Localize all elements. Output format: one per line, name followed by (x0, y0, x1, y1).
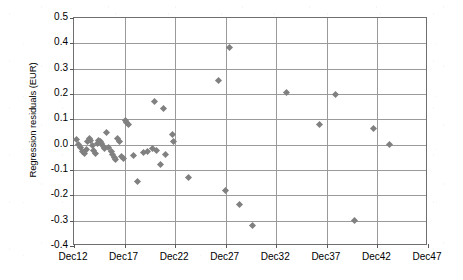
data-point (316, 121, 323, 128)
data-point (236, 201, 243, 208)
data-point (103, 129, 110, 136)
gridline-vertical (125, 18, 126, 244)
data-point (153, 147, 160, 154)
y-tick-mark (70, 43, 74, 44)
gridline-horizontal (74, 145, 426, 146)
data-point (157, 161, 164, 168)
y-tick-mark (70, 18, 74, 19)
y-tick-mark (70, 145, 74, 146)
data-point (248, 222, 255, 229)
data-point (151, 98, 158, 105)
gridline-vertical (175, 18, 176, 244)
data-point (332, 91, 339, 98)
x-tick-mark (175, 244, 176, 248)
x-tick-label: Dec47 (397, 251, 457, 262)
gridline-vertical (377, 18, 378, 244)
data-point (185, 174, 192, 181)
gridline-vertical (276, 18, 277, 244)
x-tick-mark (428, 244, 429, 248)
gridline-horizontal (74, 195, 426, 196)
data-point (134, 178, 141, 185)
data-point (222, 187, 229, 194)
data-point (226, 44, 233, 51)
data-point (386, 141, 393, 148)
data-point (125, 121, 132, 128)
gridline-vertical (327, 18, 328, 244)
y-tick-mark (70, 170, 74, 171)
gridline-vertical (226, 18, 227, 244)
data-point (370, 125, 377, 132)
x-tick-mark (377, 244, 378, 248)
x-tick-mark (276, 244, 277, 248)
gridline-horizontal (74, 69, 426, 70)
x-tick-mark (327, 244, 328, 248)
y-tick-mark (70, 195, 74, 196)
scatter-chart: Regression residuals (EUR) 0.50.40.30.20… (0, 0, 463, 280)
data-point (160, 105, 167, 112)
data-point (130, 152, 137, 159)
y-tick-mark (70, 119, 74, 120)
data-point (215, 77, 222, 84)
y-tick-mark (70, 221, 74, 222)
data-point (92, 150, 99, 157)
y-axis-title: Regression residuals (EUR) (22, 0, 44, 250)
y-tick-mark (70, 94, 74, 95)
x-tick-mark (125, 244, 126, 248)
data-point (161, 151, 168, 158)
gridline-horizontal (74, 94, 426, 95)
gridline-horizontal (74, 221, 426, 222)
y-tick-mark (70, 69, 74, 70)
x-tick-mark (74, 244, 75, 248)
gridline-horizontal (74, 170, 426, 171)
plot-area (73, 17, 427, 245)
data-point (351, 217, 358, 224)
x-tick-mark (226, 244, 227, 248)
gridline-horizontal (74, 43, 426, 44)
